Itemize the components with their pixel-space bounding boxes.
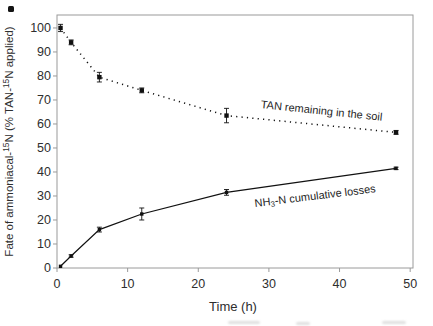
y-tick-label: 60 [37,117,51,131]
chart-canvas: 010203040500102030405060708090100Time (h… [0,0,433,326]
y-tick-label: 70 [37,93,51,107]
data-point-marker [394,130,398,134]
series-label: TAN remaining in the soil [260,98,383,123]
cropped-caption-artifact [382,321,406,324]
x-axis-title: Time (h) [209,299,257,314]
y-tick-label: 30 [37,189,51,203]
y-tick-label: 10 [37,237,51,251]
y-tick-label: 0 [44,261,51,275]
y-tick-label: 90 [37,45,51,59]
ink-blot-artifact [8,6,14,12]
data-point-marker [69,40,73,44]
data-point-marker [58,26,62,30]
data-point-marker [224,113,228,117]
x-tick-label: 50 [403,277,417,291]
data-point-marker [225,191,228,194]
figure: 010203040500102030405060708090100Time (h… [0,0,433,326]
x-tick-label: 30 [262,277,276,291]
y-tick-label: 50 [37,141,51,155]
y-tick-label: 40 [37,165,51,179]
data-point-marker [140,88,144,92]
x-tick-label: 40 [333,277,347,291]
data-point-marker [69,254,72,257]
series-line-1 [61,168,397,266]
x-tick-label: 0 [54,277,61,291]
data-point-marker [394,167,397,170]
y-tick-label: 100 [30,21,51,35]
plot-frame [57,15,413,268]
x-tick-label: 10 [121,277,135,291]
x-tick-label: 20 [191,277,205,291]
data-point-marker [140,212,143,215]
data-point-marker [97,75,101,79]
y-tick-label: 80 [37,69,51,83]
data-point-marker [59,265,62,268]
y-axis-title: Fate of ammoniacal-15N (% TAN-15N applie… [1,26,15,256]
cropped-caption-artifact [228,321,260,324]
y-tick-label: 20 [37,213,51,227]
data-point-marker [98,228,101,231]
cropped-caption-artifact [296,322,310,325]
